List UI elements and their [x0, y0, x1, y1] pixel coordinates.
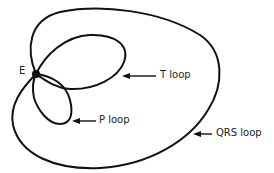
- qrs-loop-curve: [12, 9, 219, 168]
- qrs-loop-arrow-icon: [193, 131, 212, 137]
- p-loop-label: P loop: [99, 115, 130, 125]
- t-loop-arrow-icon: [122, 73, 156, 79]
- vectorcardiogram-diagram: [0, 0, 274, 173]
- origin-point-e: [32, 70, 40, 78]
- qrs-loop-label: QRS loop: [216, 128, 262, 138]
- p-loop-curve: [33, 74, 71, 124]
- p-loop-arrow-icon: [72, 118, 96, 124]
- t-loop-label: T loop: [160, 70, 191, 80]
- t-loop-curve: [36, 35, 125, 89]
- origin-label: E: [19, 66, 25, 76]
